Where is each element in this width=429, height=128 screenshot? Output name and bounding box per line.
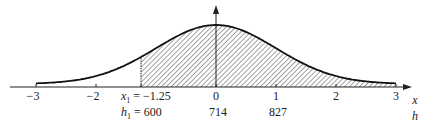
tick-label-3: 3 (393, 90, 399, 102)
x-axis-label: x (412, 94, 417, 106)
x-axis-arrow (403, 84, 412, 90)
tick-label-0: 0 (213, 90, 219, 102)
h-value-714: 714 (209, 106, 227, 118)
tick-label-minus3: −3 (27, 90, 40, 102)
h-axis-label: h (412, 110, 418, 122)
tick-label-1: 1 (273, 90, 279, 102)
tick-label-2: 2 (333, 90, 339, 102)
h-value-827: 827 (269, 106, 287, 118)
h1-annotation: h1 = 600 (121, 106, 162, 123)
y-axis-arrow (213, 5, 219, 14)
tick-label-minus2: −2 (87, 90, 100, 102)
